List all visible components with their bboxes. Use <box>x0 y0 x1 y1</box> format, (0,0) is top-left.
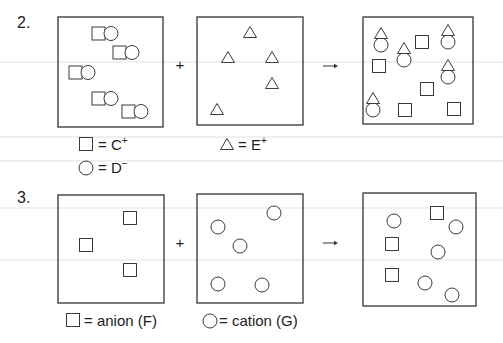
legend-circle-icon <box>79 161 93 175</box>
cation-square-icon <box>113 46 126 59</box>
triangle-icon <box>398 43 411 54</box>
circle-icon <box>441 35 455 49</box>
circle-icon <box>267 206 281 220</box>
triangle-icon <box>244 27 257 38</box>
circle-icon <box>449 220 463 234</box>
legend-circle-icon <box>203 314 217 328</box>
anion-circle-icon <box>104 27 118 41</box>
legend-square-icon <box>67 314 80 327</box>
reactant-box-1 <box>58 195 164 303</box>
cation-square-icon <box>92 27 105 40</box>
triangle-icon <box>367 93 380 104</box>
problem-2: 2.+= C+= D−= E+ <box>17 14 473 176</box>
triangle-icon <box>442 25 455 36</box>
circle-icon <box>211 277 225 291</box>
circle-icon <box>374 38 388 52</box>
legend-triangle-icon <box>221 139 234 150</box>
cation-square-icon <box>92 92 105 105</box>
problem-number: 3. <box>17 189 30 206</box>
legend-label: = anion (F) <box>84 312 157 329</box>
circle-icon <box>397 53 411 67</box>
circle-icon <box>418 276 432 290</box>
triangle-icon <box>442 60 455 71</box>
reactant-box-1 <box>58 17 163 127</box>
problem-number: 2. <box>17 14 30 31</box>
anion-circle-icon <box>134 105 148 119</box>
square-icon <box>80 239 93 252</box>
legend-label: = E+ <box>238 135 267 153</box>
circle-icon <box>431 245 445 259</box>
legend-label: = cation (G) <box>219 312 298 329</box>
legend-square-icon <box>80 138 93 151</box>
triangle-icon <box>375 28 388 39</box>
square-icon <box>124 212 137 225</box>
circle-icon <box>441 70 455 84</box>
reactant-box-2 <box>197 17 303 125</box>
square-icon <box>421 83 434 96</box>
cation-square-icon <box>122 105 135 118</box>
legend-triangle: = E+ <box>221 135 267 153</box>
ion-reaction-diagram: 2.+= C+= D−= E+3.+= anion (F)= cation (G… <box>0 0 503 343</box>
anion-circle-icon <box>104 92 118 106</box>
legend-circle: = cation (G) <box>203 312 298 329</box>
legend-circle: = D− <box>79 158 128 176</box>
legend-label: = C+ <box>98 135 128 153</box>
triangle-icon <box>222 52 235 63</box>
legend-square: = anion (F) <box>67 312 157 329</box>
square-icon <box>416 36 429 49</box>
triangle-icon <box>211 104 224 115</box>
product-box <box>363 17 473 124</box>
reaction-arrow-icon <box>323 241 338 245</box>
problems: 2.+= C+= D−= E+3.+= anion (F)= cation (G… <box>17 14 476 329</box>
square-icon <box>448 103 461 116</box>
problem-3: 3.+= anion (F)= cation (G) <box>17 189 476 329</box>
square-icon <box>373 60 386 73</box>
plus-sign: + <box>176 234 185 251</box>
box-frame <box>58 195 164 303</box>
reaction-arrow-icon <box>323 64 338 68</box>
anion-circle-icon <box>81 66 95 80</box>
plus-sign: + <box>176 56 185 73</box>
legend-label: = D− <box>98 158 128 176</box>
circle-icon <box>211 220 225 234</box>
product-box <box>363 193 476 306</box>
triangle-icon <box>266 52 279 63</box>
circle-icon <box>255 278 269 292</box>
circle-icon <box>366 103 380 117</box>
box-frame <box>363 193 476 306</box>
square-icon <box>399 104 412 117</box>
square-icon <box>386 238 399 251</box>
square-icon <box>124 264 137 277</box>
square-icon <box>386 269 399 282</box>
reactant-box-2 <box>197 194 303 303</box>
square-icon <box>431 207 444 220</box>
circle-icon <box>387 214 401 228</box>
legend-square: = C+ <box>80 135 128 153</box>
triangle-icon <box>266 78 279 89</box>
circle-icon <box>445 288 459 302</box>
cation-square-icon <box>69 66 82 79</box>
circle-icon <box>233 239 247 253</box>
anion-circle-icon <box>125 46 139 60</box>
